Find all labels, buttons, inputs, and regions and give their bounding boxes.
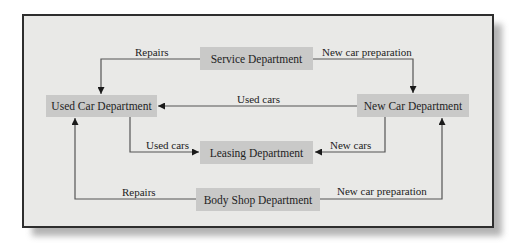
- node-new-car-department: New Car Department: [357, 94, 469, 117]
- node-body-shop-department: Body Shop Department: [196, 188, 320, 211]
- edge-label-repairs-bottom: Repairs: [122, 186, 156, 198]
- node-used-car-department: Used Car Department: [46, 95, 157, 117]
- node-leasing-department: Leasing Department: [200, 141, 313, 164]
- edge-label-used-cars-middle: Used cars: [237, 93, 280, 105]
- edge-service-to-new-car: [313, 59, 413, 93]
- node-service-department: Service Department: [200, 47, 313, 70]
- node-label: Leasing Department: [210, 147, 304, 159]
- edge-service-to-used-car: [101, 59, 200, 94]
- node-label: Service Department: [211, 53, 303, 65]
- edge-label-repairs-top: Repairs: [135, 46, 169, 58]
- edge-label-new-car-prep-bottom: New car preparation: [337, 185, 427, 197]
- node-label: Used Car Department: [51, 100, 151, 112]
- node-label: New Car Department: [364, 100, 462, 112]
- edge-label-new-cars: New cars: [330, 139, 371, 151]
- edge-label-used-cars-lower: Used cars: [146, 139, 189, 151]
- edge-label-new-car-prep-top: New car preparation: [322, 46, 412, 58]
- node-label: Body Shop Department: [204, 194, 313, 206]
